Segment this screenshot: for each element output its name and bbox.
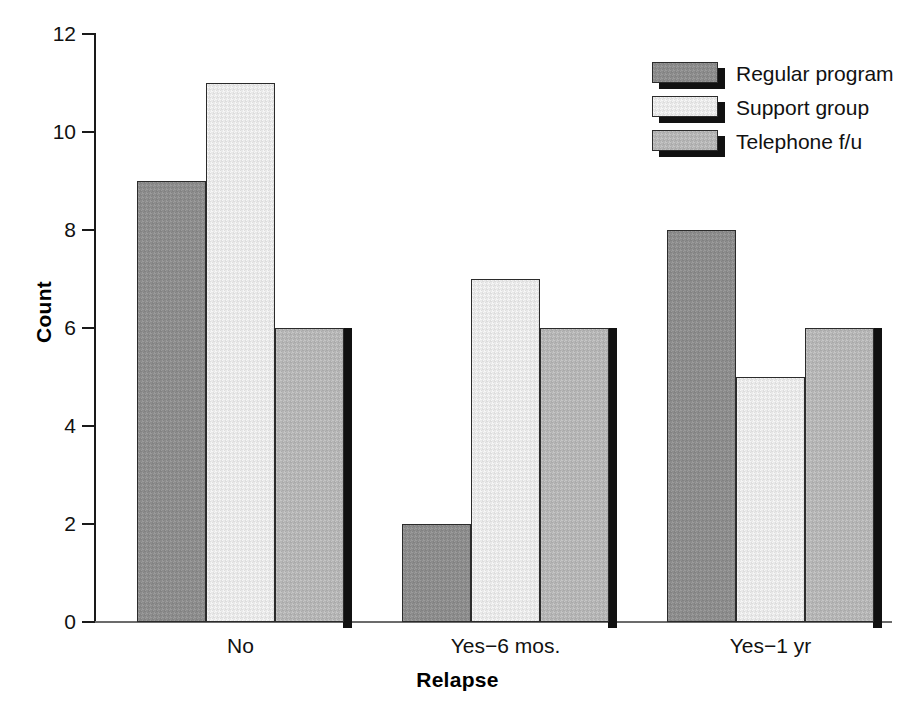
y-axis-tick-label: 10	[16, 121, 76, 142]
y-axis-tick-label: 4	[16, 415, 76, 436]
y-axis-tick-label: 0	[16, 611, 76, 632]
y-axis-tick-label: 12	[16, 23, 76, 44]
bar[interactable]	[736, 377, 805, 622]
y-axis-tick	[82, 131, 95, 133]
legend-item-label: Telephone f/u	[736, 129, 862, 155]
bar[interactable]	[540, 328, 609, 622]
x-axis-tick-label: No	[131, 634, 351, 658]
swatch-support-group	[652, 96, 718, 117]
bar-group	[402, 34, 609, 622]
y-axis-tick-label-text: 8	[36, 219, 76, 240]
legend: Regular programSupport groupTelephone f/…	[652, 62, 902, 164]
y-axis-title: Count	[32, 252, 56, 372]
legend-item-label: Support group	[736, 95, 869, 121]
legend-item-label: Regular program	[736, 61, 894, 87]
bar[interactable]	[275, 328, 344, 622]
bar[interactable]	[667, 230, 736, 622]
bar-chart-figure: 024681012 Count NoYes−6 mos.Yes−1 yr Rel…	[0, 0, 915, 712]
legend-item[interactable]: Regular program	[652, 62, 902, 92]
legend-item[interactable]: Support group	[652, 96, 902, 126]
y-axis-tick	[82, 229, 95, 231]
y-axis-tick	[82, 621, 95, 623]
y-axis-tick	[82, 33, 95, 35]
legend-swatch-wrapper	[652, 130, 730, 156]
x-axis-tick-label: Yes−1 yr	[661, 634, 881, 658]
bar-drop-shadow	[873, 328, 882, 628]
legend-item[interactable]: Telephone f/u	[652, 130, 902, 160]
bar[interactable]	[805, 328, 874, 622]
y-axis-tick	[82, 425, 95, 427]
y-axis-tick-label: 2	[16, 513, 76, 534]
y-axis-tick	[82, 523, 95, 525]
y-axis-tick-label-text: 12	[36, 23, 76, 44]
x-axis-title: Relapse	[0, 668, 915, 692]
bar-drop-shadow	[343, 328, 352, 628]
swatch-telephone-fu	[652, 130, 718, 151]
swatch-regular-program	[652, 62, 718, 83]
y-axis-tick	[82, 327, 95, 329]
bar[interactable]	[471, 279, 540, 622]
y-axis-tick-label-text: 0	[36, 611, 76, 632]
bar[interactable]	[137, 181, 206, 622]
legend-swatch-wrapper	[652, 62, 730, 88]
bar[interactable]	[206, 83, 275, 622]
x-axis-tick-label: Yes−6 mos.	[396, 634, 616, 658]
bar-drop-shadow	[608, 328, 617, 628]
y-axis-tick-label: 8	[16, 219, 76, 240]
y-axis-tick-label-text: 10	[36, 121, 76, 142]
bar[interactable]	[402, 524, 471, 622]
bar-group	[137, 34, 344, 622]
y-axis-tick-label-text: 2	[36, 513, 76, 534]
y-axis-tick-label-text: 4	[36, 415, 76, 436]
legend-swatch-wrapper	[652, 96, 730, 122]
